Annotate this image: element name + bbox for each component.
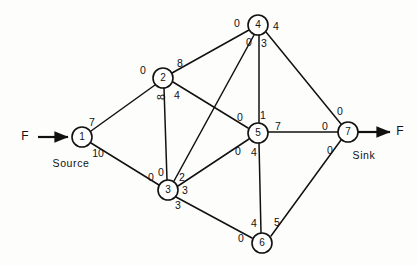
edge-label-5-7-tail: 7: [275, 121, 281, 132]
node-2[interactable]: [153, 68, 173, 88]
edge-label-6-7-tail: 5: [274, 217, 280, 228]
edge-label-4-7-tail: 4: [273, 21, 279, 32]
edge-label-4-5-head: 1: [260, 110, 266, 121]
edge-label-1-2-head: 0: [140, 65, 146, 76]
outflow-label-f: F: [396, 125, 403, 137]
edge-label-2-4-tail: 8: [177, 58, 183, 69]
node-5[interactable]: [248, 123, 268, 143]
edge-label-3-6-head: 0: [238, 233, 244, 244]
edge-label-3-4-head: 0: [246, 37, 252, 48]
network-flow-diagram: 1 2 3 4 5 6 7 7 0 10 0 8 0 8 0 4 0 2 0 3…: [0, 0, 417, 266]
edge-label-1-3-tail: 10: [92, 148, 104, 159]
edge-label-1-2-tail: 7: [89, 117, 95, 128]
edge-label-4-5-tail: 3: [261, 38, 267, 49]
edge-label-3-5-tail: 3: [182, 185, 188, 196]
sink-caption: Sink: [353, 150, 376, 161]
edge-label-2-3-head: 0: [158, 167, 164, 178]
edge-label-3-5-head: 0: [235, 146, 241, 157]
node-7[interactable]: [338, 122, 358, 142]
edges-group: [91, 30, 341, 238]
edge-5-6: [259, 143, 261, 233]
node-1[interactable]: [72, 127, 92, 147]
edge-label-2-3-tail: 8: [156, 94, 167, 100]
node-6[interactable]: [252, 233, 272, 253]
graph-canvas: [0, 0, 417, 266]
edge-label-6-7-head: 0: [327, 145, 333, 156]
edge-3-4: [174, 35, 254, 181]
edge-label-4-7-head: 0: [337, 106, 343, 117]
edge-label-2-5-head: 0: [237, 112, 243, 123]
node-3[interactable]: [158, 180, 178, 200]
edge-1-2: [91, 85, 155, 131]
edge-label-3-4-tail: 2: [179, 172, 185, 183]
edge-4-7: [266, 32, 341, 124]
node-4[interactable]: [248, 15, 268, 35]
edge-label-5-6-head: 4: [251, 218, 257, 229]
edge-label-3-6-tail: 3: [175, 200, 181, 211]
edge-label-1-3-head: 0: [148, 172, 154, 183]
edge-label-5-7-head: 0: [322, 121, 328, 132]
edge-label-2-5-tail: 4: [174, 90, 180, 101]
source-caption: Source: [53, 158, 90, 169]
edge-label-2-4-head: 0: [234, 18, 240, 29]
edge-label-5-6-tail: 4: [251, 147, 257, 158]
inflow-label-f: F: [21, 130, 28, 142]
edge-2-3: [164, 88, 167, 180]
